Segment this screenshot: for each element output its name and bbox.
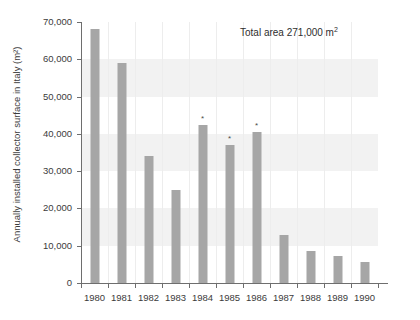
gridline-vertical <box>216 22 217 283</box>
x-axis-tick <box>81 284 82 288</box>
y-axis-tick <box>77 134 81 135</box>
y-axis-tick <box>77 246 81 247</box>
bar <box>279 235 288 283</box>
y-axis-tick <box>77 171 81 172</box>
gridline-vertical <box>297 22 298 283</box>
x-axis-tick-label: 1988 <box>300 292 321 303</box>
bar <box>360 262 369 283</box>
gridline-vertical <box>135 22 136 283</box>
y-axis-tick <box>77 22 81 23</box>
bar <box>171 190 180 283</box>
gridline-vertical <box>351 22 352 283</box>
x-axis-tick <box>135 284 136 288</box>
y-axis-tick <box>77 97 81 98</box>
y-axis-tick-label: 0 <box>0 278 72 288</box>
gridline-vertical <box>243 22 244 283</box>
bar <box>306 251 315 283</box>
x-axis-tick-label: 1983 <box>165 292 186 303</box>
x-axis-tick <box>324 284 325 288</box>
x-axis-line <box>81 283 388 284</box>
x-axis-tick <box>297 284 298 288</box>
gridline-vertical <box>270 22 271 283</box>
bar <box>117 63 126 283</box>
bar <box>252 132 261 283</box>
gridline-vertical <box>189 22 190 283</box>
bar <box>225 145 234 283</box>
chart-container: *** 010,00020,00030,00040,00050,00060,00… <box>0 0 420 320</box>
x-axis-tick <box>378 284 379 288</box>
y-axis-title: Annually installed collector surface in … <box>11 15 22 275</box>
x-axis-tick <box>162 284 163 288</box>
y-axis-line <box>81 22 82 283</box>
plot-area: *** <box>81 22 378 283</box>
x-axis-tick-label: 1980 <box>84 292 105 303</box>
x-axis-tick-label: 1987 <box>273 292 294 303</box>
bar <box>144 156 153 283</box>
x-axis-tick-label: 1982 <box>138 292 159 303</box>
x-axis-tick <box>351 284 352 288</box>
x-axis-tick-label: 1990 <box>354 292 375 303</box>
y-axis-tick <box>77 59 81 60</box>
x-axis-tick-label: 1989 <box>327 292 348 303</box>
x-axis-tick-label: 1981 <box>111 292 132 303</box>
x-axis-tick <box>216 284 217 288</box>
total-area-annotation: Total area 271,000 m2 <box>240 26 338 38</box>
bar-marker-asterisk: * <box>228 135 231 143</box>
x-axis-tick <box>108 284 109 288</box>
x-axis-tick <box>243 284 244 288</box>
gridline-vertical <box>162 22 163 283</box>
gridline-vertical <box>324 22 325 283</box>
x-axis-tick <box>270 284 271 288</box>
bar-marker-asterisk: * <box>255 122 258 130</box>
gridline-vertical <box>108 22 109 283</box>
bar-marker-asterisk: * <box>201 115 204 123</box>
x-axis-tick <box>189 284 190 288</box>
bar <box>90 29 99 283</box>
y-axis-tick <box>77 208 81 209</box>
total-area-text: Total area 271,000 m <box>240 27 334 38</box>
bar <box>198 125 207 283</box>
x-axis-tick-label: 1984 <box>192 292 213 303</box>
total-area-exponent: 2 <box>334 26 338 33</box>
bar <box>333 256 342 283</box>
x-axis-tick-label: 1985 <box>219 292 240 303</box>
x-axis-tick-label: 1986 <box>246 292 267 303</box>
